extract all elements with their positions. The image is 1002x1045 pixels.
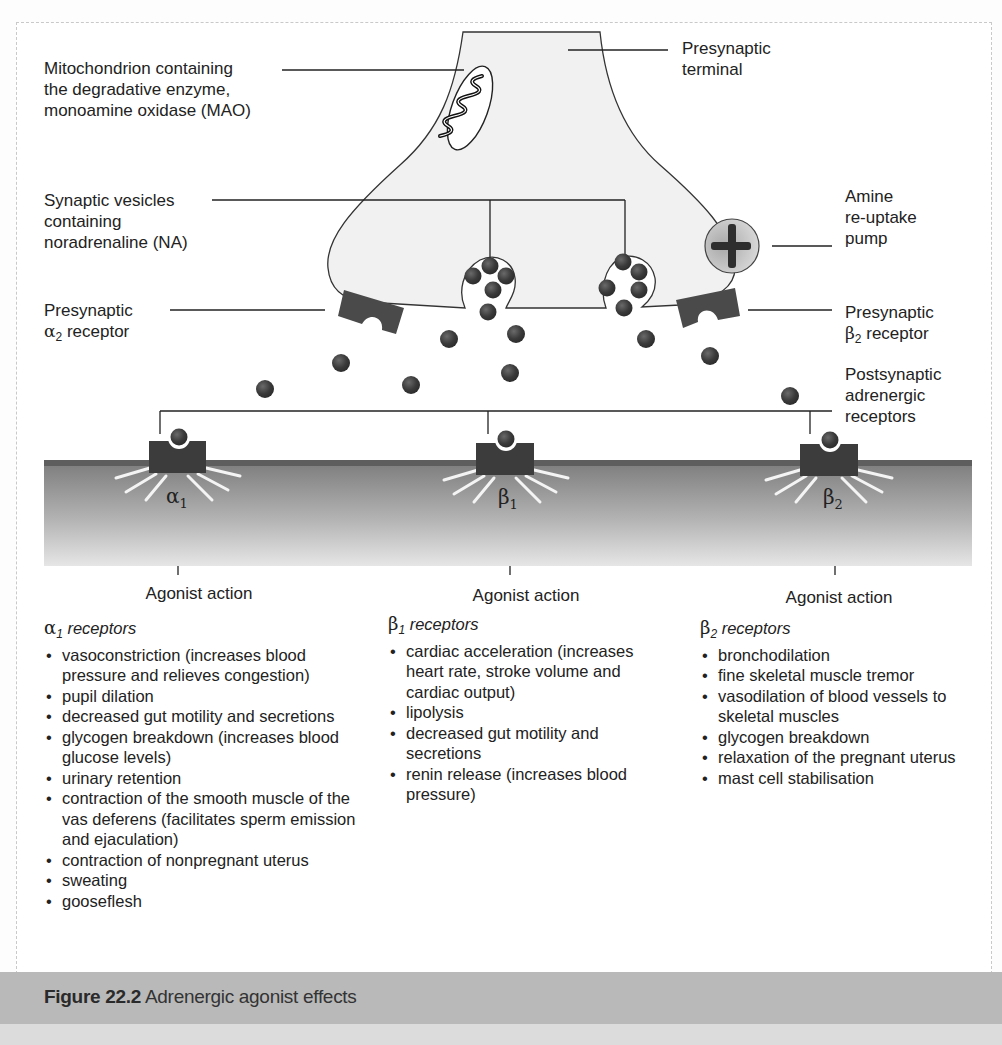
- label-line: Amine: [845, 186, 917, 207]
- bottom-strip: [0, 1024, 1002, 1045]
- list-item: mast cell stabilisation: [700, 768, 978, 789]
- label-line: adrenergic: [845, 385, 941, 406]
- reuptake-pump-icon: [705, 219, 759, 273]
- label-line: β2 receptor: [845, 323, 934, 350]
- list-item: contraction of the smooth muscle of the …: [44, 788, 364, 850]
- heading-text: receptors: [67, 619, 136, 637]
- agonist-action-label-beta1: Agonist action: [426, 586, 626, 606]
- list-item: glycogen breakdown (increases blood gluc…: [44, 727, 364, 768]
- column-heading: α1 receptors: [44, 618, 364, 645]
- label-line: Mitochondrion containing: [44, 58, 251, 79]
- beta2-effects-column: β2 receptors bronchodilation fine skelet…: [700, 618, 978, 788]
- list-item: glycogen breakdown: [700, 727, 978, 748]
- subscript: 2: [855, 332, 862, 346]
- presynaptic-terminal: [328, 32, 735, 308]
- label-line: α2 receptor: [44, 321, 133, 348]
- list-item: vasodilation of blood vessels to skeleta…: [700, 686, 978, 727]
- list-item: gooseflesh: [44, 891, 364, 912]
- agonist-action-label-alpha1: Agonist action: [99, 584, 299, 604]
- heading-text: receptors: [410, 615, 479, 633]
- mitochondrion-label: Mitochondrion containing the degradative…: [44, 58, 251, 121]
- label-line: Synaptic vesicles: [44, 190, 188, 211]
- list-item: sweating: [44, 870, 364, 891]
- list-item: decreased gut motility and secretions: [44, 706, 364, 727]
- vesicle-left: [465, 258, 515, 321]
- label-text: receptor: [862, 324, 929, 343]
- postsynaptic-receptors-label: Postsynaptic adrenergic receptors: [845, 364, 941, 427]
- label-line: pump: [845, 228, 917, 249]
- label-line: re-uptake: [845, 207, 917, 228]
- greek-symbol: β: [498, 485, 510, 509]
- presynaptic-terminal-label: Presynaptic terminal: [682, 38, 771, 80]
- label-line: receptors: [845, 406, 941, 427]
- greek-symbol: α: [44, 617, 56, 638]
- label-line: containing: [44, 211, 188, 232]
- list-item: contraction of nonpregnant uterus: [44, 850, 364, 871]
- label-line: Postsynaptic: [845, 364, 941, 385]
- list-item: renin release (increases blood pressure): [388, 764, 638, 805]
- label-line: Presynaptic: [845, 302, 934, 323]
- greek-symbol: β: [823, 485, 835, 509]
- effects-list: vasoconstriction (increases blood pressu…: [44, 645, 364, 912]
- reuptake-pump-label: Amine re-uptake pump: [845, 186, 917, 249]
- alpha1-effects-column: α1 receptors vasoconstriction (increases…: [44, 618, 364, 911]
- list-item: vasoconstriction (increases blood pressu…: [44, 645, 364, 686]
- list-item: lipolysis: [388, 702, 638, 723]
- label-text: receptor: [62, 322, 129, 341]
- list-item: urinary retention: [44, 768, 364, 789]
- greek-symbol: β: [700, 617, 710, 638]
- greek-symbol: β: [845, 323, 855, 343]
- list-item: fine skeletal muscle tremor: [700, 665, 978, 686]
- label-line: noradrenaline (NA): [44, 232, 188, 253]
- greek-symbol: α: [166, 484, 180, 508]
- column-heading: β2 receptors: [700, 618, 978, 645]
- subscript: 2: [835, 497, 843, 512]
- label-line: monoamine oxidase (MAO): [44, 100, 251, 121]
- receptor-label-beta2: β2: [823, 485, 843, 512]
- label-line: Presynaptic: [682, 38, 771, 59]
- figure-title: Adrenergic agonist effects: [145, 986, 357, 1007]
- list-item: bronchodilation: [700, 645, 978, 666]
- greek-symbol: β: [388, 613, 398, 634]
- column-heading: β1 receptors: [388, 614, 638, 641]
- figure-caption: Figure 22.2 Adrenergic agonist effects: [44, 986, 357, 1008]
- greek-symbol: α: [44, 321, 55, 341]
- effects-list: cardiac acceleration (increases heart ra…: [388, 641, 638, 805]
- presynaptic-beta2-label: Presynaptic β2 receptor: [845, 302, 934, 350]
- label-line: Presynaptic: [44, 300, 133, 321]
- receptor-label-alpha1: α1: [166, 484, 188, 511]
- synaptic-vesicles-label: Synaptic vesicles containing noradrenali…: [44, 190, 188, 253]
- presynaptic-alpha2-label: Presynaptic α2 receptor: [44, 300, 133, 348]
- figure-number: Figure 22.2: [44, 986, 141, 1007]
- subscript: 1: [56, 627, 63, 641]
- list-item: pupil dilation: [44, 686, 364, 707]
- noradrenaline-molecules: [256, 325, 799, 405]
- label-line: terminal: [682, 59, 771, 80]
- subscript: 1: [180, 496, 188, 511]
- subscript: 1: [510, 497, 518, 512]
- list-item: cardiac acceleration (increases heart ra…: [388, 641, 638, 703]
- label-line: the degradative enzyme,: [44, 79, 251, 100]
- list-item: decreased gut motility and secretions: [388, 723, 638, 764]
- list-item: relaxation of the pregnant uterus: [700, 747, 978, 768]
- heading-text: receptors: [722, 619, 791, 637]
- effects-list: bronchodilation fine skeletal muscle tre…: [700, 645, 978, 789]
- receptor-label-beta1: β1: [498, 485, 518, 512]
- subscript: 2: [710, 627, 717, 641]
- beta1-effects-column: β1 receptors cardiac acceleration (incre…: [388, 614, 638, 805]
- subscript: 1: [398, 623, 405, 637]
- agonist-action-label-beta2: Agonist action: [739, 588, 939, 608]
